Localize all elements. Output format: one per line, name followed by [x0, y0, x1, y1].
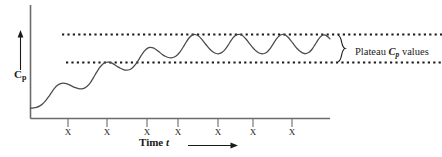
- right-arrow-icon: [188, 143, 238, 149]
- figure-container: Cp Time t X X X X X X X Plateau Cp value…: [0, 0, 442, 157]
- dose-mark: X: [250, 127, 257, 137]
- dose-mark: X: [104, 127, 111, 137]
- plateau-text-symbol: C: [389, 46, 396, 57]
- y-axis-label-main: C: [14, 68, 22, 80]
- dose-mark: X: [175, 127, 182, 137]
- curly-brace-icon: [338, 36, 345, 62]
- y-axis-label: Cp: [14, 68, 26, 82]
- x-axis-label-italic: t: [166, 136, 169, 148]
- concentration-curve: [31, 34, 331, 108]
- plateau-annotation-label: Plateau Cp values: [355, 46, 429, 59]
- x-axis-label-main: Time: [139, 136, 163, 148]
- y-axis-label-sub: p: [22, 73, 26, 82]
- up-arrow-icon: [18, 30, 24, 70]
- dose-mark: X: [215, 127, 222, 137]
- x-axis-label: Time t: [139, 136, 169, 148]
- plateau-text-before: Plateau: [355, 46, 389, 57]
- dose-mark: X: [144, 127, 151, 137]
- dose-mark: X: [289, 127, 296, 137]
- dose-mark: X: [65, 127, 72, 137]
- dose-tick-marks: [68, 119, 292, 128]
- plateau-text-after: values: [399, 46, 428, 57]
